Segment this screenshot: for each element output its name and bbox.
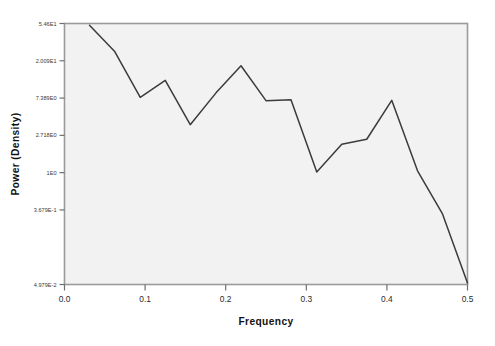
- x-axis-title: Frequency: [238, 316, 293, 327]
- x-axis-tick-label: 0.4: [381, 294, 393, 304]
- y-axis-tick-label: 2.718E0: [36, 132, 57, 138]
- y-axis-tick-label: 4.979E-2: [34, 282, 57, 288]
- x-axis-tick-label: 0.5: [462, 294, 474, 304]
- x-axis-tick-label: 0.0: [59, 294, 71, 304]
- y-axis-title: Power (Density): [10, 113, 21, 196]
- chart-canvas: 5.46E12.009E17.389E02.718E01E03.679E-14.…: [0, 0, 495, 346]
- plot-area-panel: [65, 24, 468, 285]
- y-axis-tick-label: 7.389E0: [36, 95, 57, 101]
- x-axis-tick-label: 0.2: [220, 294, 232, 304]
- x-axis-tick-label: 0.3: [300, 294, 312, 304]
- power-density-spectrum-chart: 5.46E12.009E17.389E02.718E01E03.679E-14.…: [0, 0, 495, 346]
- x-axis-tick-label: 0.1: [139, 294, 151, 304]
- y-axis-tick-label: 3.679E-1: [34, 207, 57, 213]
- y-axis-tick-label: 5.46E1: [39, 21, 57, 27]
- y-axis-tick-label: 1E0: [47, 170, 57, 176]
- y-axis-tick-label: 2.009E1: [36, 58, 57, 64]
